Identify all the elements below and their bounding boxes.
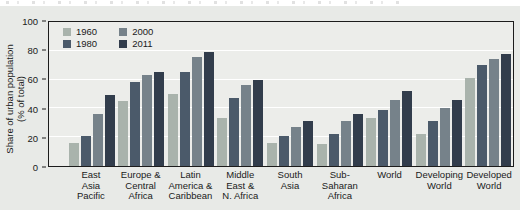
bar-2000 [142, 75, 152, 166]
category-label: SouthAsia [265, 170, 315, 202]
y-tick-label-20: 20 [27, 133, 38, 142]
bar-group [315, 22, 365, 166]
legend-label: 1960 [76, 27, 97, 36]
bar-1960 [465, 78, 475, 166]
bar-2011 [501, 54, 511, 166]
y-tick-label-60: 60 [27, 75, 38, 84]
bar-group [464, 22, 514, 166]
legend-item-2011: 2011 [119, 39, 153, 48]
bar-2000 [489, 59, 499, 166]
bar-group [414, 22, 464, 166]
x-axis-category-labels: EastAsiaPacificEurope &CentralAfricaLati… [48, 170, 514, 202]
y-tick-mark [42, 137, 46, 138]
legend: 1960198020002011 [63, 27, 153, 48]
category-label: World [365, 170, 415, 202]
cropped-text-remnant [6, 1, 406, 4]
bar-1960 [69, 143, 79, 166]
bar-2000 [241, 85, 251, 166]
bar-2011 [353, 114, 363, 166]
category-label: DevelopingWorld [414, 170, 464, 202]
bar-1960 [317, 144, 327, 166]
category-label: LatinAmerica &Caribbean [166, 170, 216, 202]
bar-1960 [267, 143, 277, 166]
legend-swatch-icon [119, 40, 127, 48]
bar-2011 [204, 52, 214, 166]
bar-1960 [118, 101, 128, 166]
bar-1980 [329, 134, 339, 166]
bar-2000 [291, 127, 301, 166]
legend-label: 1980 [76, 39, 97, 48]
y-tick-mark [42, 167, 46, 168]
chart-panel: 020406080100 Share of urban population (… [0, 6, 520, 210]
y-tick-label-40: 40 [27, 104, 38, 113]
bar-1960 [416, 134, 426, 166]
bar-2011 [105, 95, 115, 166]
y-axis-title-line1: Share of urban population [4, 26, 15, 172]
y-tick-label-80: 80 [27, 46, 38, 55]
bar-group [166, 22, 216, 166]
y-axis-title-line2: (% of total) [15, 26, 26, 172]
bar-group [216, 22, 266, 166]
bar-2011 [303, 121, 313, 166]
legend-item-2000: 2000 [119, 27, 153, 36]
y-tick-mark [42, 108, 46, 109]
bar-1980 [477, 65, 487, 166]
bar-2000 [192, 57, 202, 166]
legend-item-1980: 1980 [63, 39, 97, 48]
legend-swatch-icon [63, 40, 71, 48]
y-tick-mark [42, 50, 46, 51]
bar-1960 [168, 94, 178, 166]
y-tick-label-100: 100 [22, 17, 38, 26]
legend-label: 2000 [132, 27, 153, 36]
bar-2011 [452, 100, 462, 166]
y-tick-mark [42, 79, 46, 80]
bar-1980 [130, 82, 140, 166]
bar-1980 [229, 98, 239, 166]
legend-swatch-icon [119, 28, 127, 36]
bar-group [265, 22, 315, 166]
bar-2011 [154, 72, 164, 166]
y-tick-label-0: 0 [33, 163, 38, 172]
bar-1980 [180, 72, 190, 166]
bar-1960 [217, 118, 227, 166]
bar-1980 [428, 121, 438, 166]
category-label: DevelopedWorld [464, 170, 514, 202]
legend-item-1960: 1960 [63, 27, 97, 36]
legend-swatch-icon [63, 28, 71, 36]
legend-label: 2011 [132, 39, 152, 48]
category-label: Sub-SaharanAfrica [315, 170, 365, 202]
bar-group [364, 22, 414, 166]
category-label: Europe &CentralAfrica [116, 170, 166, 202]
bar-2000 [93, 114, 103, 166]
category-label: EastAsiaPacific [66, 170, 116, 202]
bar-1980 [81, 136, 91, 166]
bar-2011 [402, 91, 412, 166]
bar-1980 [279, 136, 289, 166]
bar-2000 [341, 121, 351, 166]
y-axis-title: Share of urban population (% of total) [4, 26, 28, 172]
bar-1980 [378, 110, 388, 166]
y-tick-mark [42, 21, 46, 22]
bar-2000 [390, 100, 400, 166]
category-label: MiddleEast &N. Africa [215, 170, 265, 202]
bar-2000 [440, 108, 450, 166]
plot-area: 1960198020002011 [48, 21, 514, 167]
bar-1960 [366, 118, 376, 166]
bar-2011 [253, 80, 263, 166]
